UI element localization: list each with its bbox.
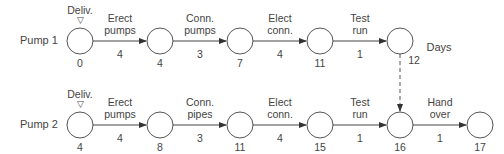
- activity-label: Handover: [420, 96, 460, 120]
- node-time: 16: [390, 141, 410, 153]
- node-time: 11: [310, 57, 330, 69]
- node-p2-4: [67, 112, 93, 138]
- node-p1-12: [387, 28, 413, 54]
- node-p1-4: [147, 28, 173, 54]
- activity-duration: 1: [420, 132, 460, 144]
- activity-duration: 4: [100, 132, 140, 144]
- activity-label: Electconn.: [260, 12, 300, 36]
- node-p2-16: [387, 112, 413, 138]
- node-time: 11: [230, 141, 250, 153]
- deliv-marker-icon-p2: ▽: [64, 98, 96, 110]
- node-p2-11: [227, 112, 253, 138]
- activity-label: Conn.pipes: [180, 96, 220, 120]
- node-time: 12: [404, 54, 424, 66]
- units-label: Days: [424, 41, 454, 53]
- activity-label: Electconn.: [260, 96, 300, 120]
- activity-label: Erectpumps: [100, 12, 140, 36]
- activity-label: Erectpumps: [100, 96, 140, 120]
- node-time: 7: [230, 57, 250, 69]
- node-time: 8: [150, 141, 170, 153]
- deliv-marker-icon-p1: ▽: [64, 14, 96, 26]
- node-time: 4: [150, 57, 170, 69]
- node-time: 15: [310, 141, 330, 153]
- activity-label: Conn.pumps: [180, 12, 220, 36]
- node-p1-11: [307, 28, 333, 54]
- node-time: 17: [470, 141, 490, 153]
- activity-duration: 3: [180, 132, 220, 144]
- activity-duration: 1: [340, 48, 380, 60]
- node-p1-7: [227, 28, 253, 54]
- activity-duration: 4: [100, 48, 140, 60]
- activity-duration: 4: [260, 132, 300, 144]
- node-p2-17: [467, 112, 493, 138]
- activity-duration: 4: [260, 48, 300, 60]
- activity-duration: 3: [180, 48, 220, 60]
- activity-duration: 1: [340, 132, 380, 144]
- row-label-pump2: Pump 2: [20, 118, 58, 130]
- node-p1-0: [67, 28, 93, 54]
- activity-label: Testrun: [340, 12, 380, 36]
- activity-label: Testrun: [340, 96, 380, 120]
- node-p2-8: [147, 112, 173, 138]
- node-p2-15: [307, 112, 333, 138]
- node-time: 0: [70, 57, 90, 69]
- node-time: 4: [70, 141, 90, 153]
- row-label-pump1: Pump 1: [20, 34, 58, 46]
